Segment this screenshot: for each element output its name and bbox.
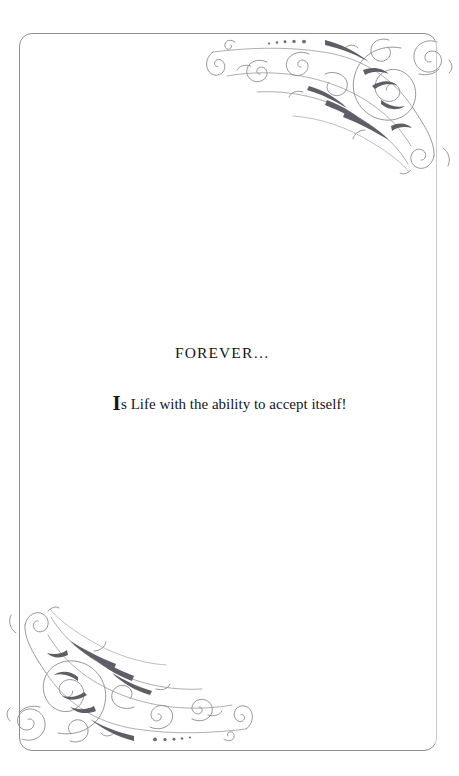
- corner-flourish-top-right: [205, 30, 455, 175]
- body-paragraph: Is Life with the ability to accept itsel…: [0, 363, 459, 414]
- drop-cap-letter: I: [113, 391, 121, 415]
- page-text-block: FOREVER… Is Life with the ability to acc…: [0, 344, 459, 414]
- body-paragraph-text: s Life with the ability to accept itself…: [121, 396, 346, 412]
- corner-flourish-bottom-left: [4, 606, 254, 751]
- page-title: FOREVER…: [0, 344, 459, 363]
- book-page: FOREVER… Is Life with the ability to acc…: [0, 0, 459, 776]
